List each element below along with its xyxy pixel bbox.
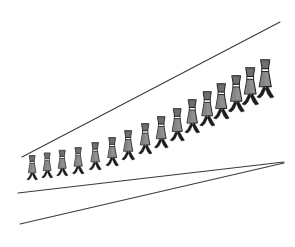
ponzo-illusion-image (0, 0, 295, 247)
scene-canvas (0, 0, 295, 247)
